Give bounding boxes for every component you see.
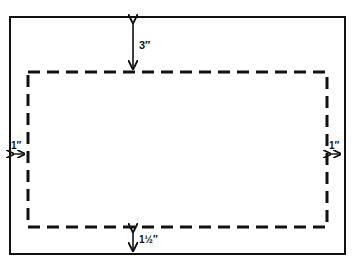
- content-area-dashed: [28, 72, 327, 227]
- bottom-margin-label: 1½″: [139, 234, 158, 245]
- top-margin-label: 3″: [139, 39, 150, 51]
- margin-diagram: [0, 0, 360, 264]
- left-margin-label: 1″: [11, 140, 21, 151]
- right-margin-label: 1″: [329, 140, 339, 151]
